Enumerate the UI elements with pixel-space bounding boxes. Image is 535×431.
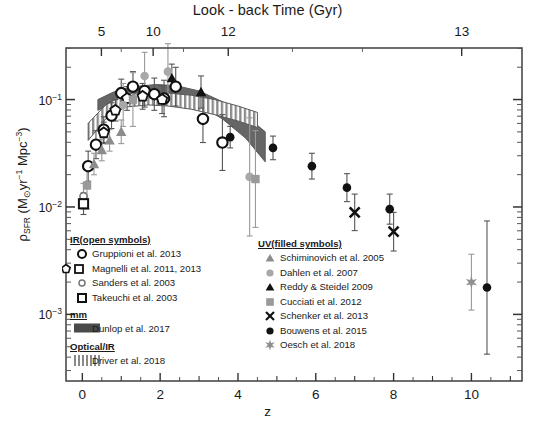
legend-label: Cucciati et al. 2012 [280,296,362,308]
legend-marker-icon [74,277,90,289]
y-tick-label: 10−3 [20,306,62,322]
y-tick-label: 10−1 [20,91,62,107]
top-tick-label: 5 [98,24,106,39]
legend-marker-icon [74,355,90,367]
sfr-density-figure: Look - back Time (Gyr) ρSFR (M⊙yr−1 Mpc−… [0,0,535,431]
legend-label: Reddy & Steidel 2009 [280,281,373,293]
x-tick-label: 4 [234,387,242,402]
legend-label: Takeuchi et al. 2003 [92,292,177,304]
legend-label: Gruppioni et al. 2013 [92,248,181,260]
confidence-bands [88,85,265,162]
legend-label: Schenker et al. 2013 [280,310,368,322]
legend-marker-icon [262,339,278,351]
legend-label: Schiminovich et al. 2005 [280,252,384,264]
legend-marker-icon [262,296,278,308]
legend-heading: Optical/IR [70,341,115,352]
legend-marker-icon [74,248,90,260]
legend-heading: UV(filled symbols) [258,238,342,249]
legend-marker-icon [74,323,90,335]
legend-label: Driver et al. 2018 [92,355,165,367]
legend-label: Oesch et al. 2018 [280,339,355,351]
legend-marker-icon [262,310,278,322]
legend-marker-icon [262,325,278,337]
x-tick-label: 2 [156,387,164,402]
top-tick-label: 13 [454,24,469,39]
top-tick-label: 10 [146,24,161,39]
legend-heading: IR(open symbols) [70,234,151,245]
y-tick-label: 10−2 [20,199,62,215]
top-tick-label: 12 [221,24,236,39]
x-tick-label: 0 [79,387,87,402]
legend-label: Dahlen et al. 2007 [280,267,358,279]
legend-marker-icon [262,267,278,279]
legend-label: Magnelli et al. 2011, 2013 [92,263,201,275]
legend-marker-icon [74,292,90,304]
legend-marker-icon [262,252,278,264]
legend-label: Dunlop et al. 2017 [92,323,170,335]
legend-label: Bouwens et al. 2015 [280,325,367,337]
legend-label: Sanders et al. 2003 [92,277,175,289]
x-tick-label: 10 [464,387,479,402]
legend-marker-icon [74,263,90,275]
x-tick-label: 6 [312,387,320,402]
legend-marker-icon [262,281,278,293]
legend-heading: mm [70,309,87,320]
x-tick-label: 8 [390,387,398,402]
